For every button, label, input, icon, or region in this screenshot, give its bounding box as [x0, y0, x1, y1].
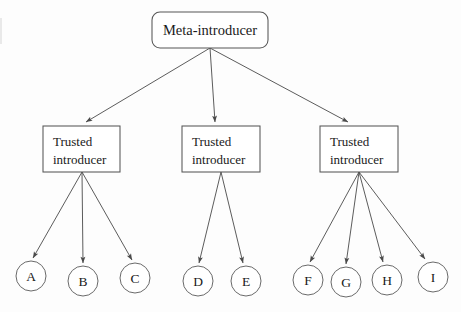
trusted-introducer-1-label-line2: introducer — [53, 152, 107, 167]
edge-group-introducer-2 — [199, 172, 243, 263]
edge-introducer-2-to-d — [199, 172, 221, 263]
trusted-introducer-1-label-line1: Trusted — [53, 134, 93, 149]
leaf-c-label: C — [130, 271, 139, 286]
leaf-node-b: B — [68, 266, 98, 296]
leaf-a-label: A — [26, 269, 36, 284]
leaf-node-h: H — [372, 265, 402, 295]
node-trusted-introducer-3: Trusted introducer — [320, 126, 398, 172]
edge-introducer-2-to-e — [221, 172, 243, 263]
leaf-node-g: G — [331, 267, 361, 297]
leaf-g-label: G — [341, 275, 351, 290]
leaf-node-c: C — [120, 263, 150, 293]
edge-introducer-1-to-b — [82, 172, 83, 263]
node-trusted-introducer-2: Trusted introducer — [182, 126, 260, 172]
leaf-h-label: H — [382, 273, 392, 288]
leaf-b-label: B — [78, 274, 87, 289]
leaf-node-i: I — [418, 262, 448, 292]
meta-introducer-label: Meta-introducer — [163, 22, 257, 38]
edge-introducer-3-to-i — [359, 172, 425, 259]
edge-introducer-3-to-h — [359, 172, 383, 262]
trusted-introducer-3-label-line2: introducer — [330, 152, 384, 167]
edge-group-introducer-1 — [33, 172, 132, 263]
trusted-introducer-3-label-line1: Trusted — [330, 134, 370, 149]
trusted-introducer-2-label-line2: introducer — [192, 152, 246, 167]
leaf-node-a: A — [16, 261, 46, 291]
edge-group-meta — [86, 48, 348, 122]
edge-introducer-1-to-a — [33, 172, 82, 258]
leaf-d-label: D — [193, 274, 203, 289]
leaf-i-label: I — [431, 270, 436, 285]
leaf-e-label: E — [242, 274, 250, 289]
leaf-node-e: E — [231, 266, 261, 296]
diagram-canvas: Meta-introducer Trusted introducer Trust… — [0, 0, 461, 312]
edge-group-introducer-3 — [310, 172, 425, 264]
node-meta-introducer: Meta-introducer — [152, 12, 268, 48]
scan-artifact-left — [0, 18, 2, 44]
node-trusted-introducer-1: Trusted introducer — [43, 126, 120, 172]
edge-introducer-1-to-c — [82, 172, 132, 260]
edge-introducer-3-to-g — [346, 172, 359, 264]
trusted-introducer-2-label-line1: Trusted — [192, 134, 232, 149]
edge-meta-to-introducer-1 — [86, 48, 210, 122]
trust-hierarchy-diagram: Meta-introducer Trusted introducer Trust… — [0, 0, 461, 312]
edge-meta-to-introducer-2 — [210, 48, 215, 122]
leaf-node-d: D — [183, 266, 213, 296]
leaf-f-label: F — [304, 273, 312, 288]
leaf-node-f: F — [293, 265, 323, 295]
edge-introducer-3-to-f — [310, 172, 359, 262]
edge-meta-to-introducer-3 — [210, 48, 348, 122]
